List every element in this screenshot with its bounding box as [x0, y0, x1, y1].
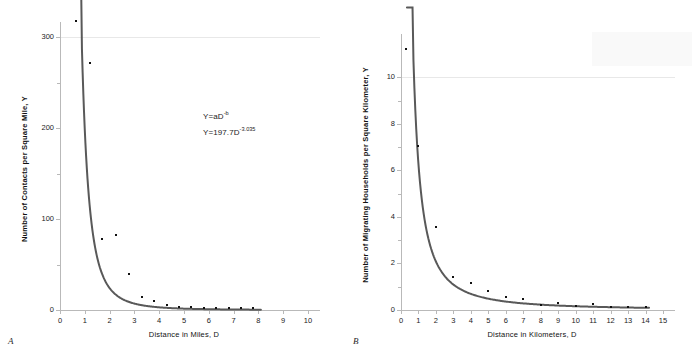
panel-a: 0100200300012345678910Distance in Miles,…	[0, 0, 347, 357]
equation-general-a: Y=aD-b	[203, 110, 229, 121]
data-point	[228, 307, 230, 309]
data-point	[141, 296, 143, 298]
data-point	[610, 306, 612, 308]
data-point	[575, 305, 577, 307]
data-point	[203, 307, 205, 309]
fitted-curve	[0, 0, 347, 357]
equation-fitted-a: Y=197.7D-3.035	[203, 126, 255, 137]
plot-area-a: 0100200300012345678910Distance in Miles,…	[0, 0, 347, 357]
data-point	[252, 307, 254, 309]
data-point	[405, 48, 407, 50]
data-point	[128, 273, 130, 275]
plot-area-b: 02468100123456789101112131415Distance in…	[347, 0, 694, 357]
data-point	[627, 306, 629, 308]
data-point	[417, 145, 419, 147]
figure-container: 0100200300012345678910Distance in Miles,…	[0, 0, 694, 357]
data-point	[115, 234, 117, 236]
data-point	[75, 20, 77, 22]
data-point	[435, 226, 437, 228]
data-point	[178, 306, 180, 308]
data-point	[190, 306, 192, 308]
data-point	[89, 62, 91, 64]
data-point	[470, 282, 472, 284]
data-point	[592, 303, 594, 305]
data-point	[557, 302, 559, 304]
data-point	[153, 300, 155, 302]
data-point	[452, 276, 454, 278]
fitted-curve	[347, 0, 694, 357]
data-point	[101, 238, 103, 240]
data-point	[215, 307, 217, 309]
data-point	[240, 307, 242, 309]
data-point	[540, 304, 542, 306]
data-point	[645, 306, 647, 308]
data-point	[487, 290, 489, 292]
data-point	[505, 296, 507, 298]
panel-letter-b: B	[353, 336, 359, 346]
data-point	[166, 304, 168, 306]
panel-b: 02468100123456789101112131415Distance in…	[347, 0, 694, 357]
data-point	[522, 298, 524, 300]
panel-letter-a: A	[8, 336, 14, 346]
